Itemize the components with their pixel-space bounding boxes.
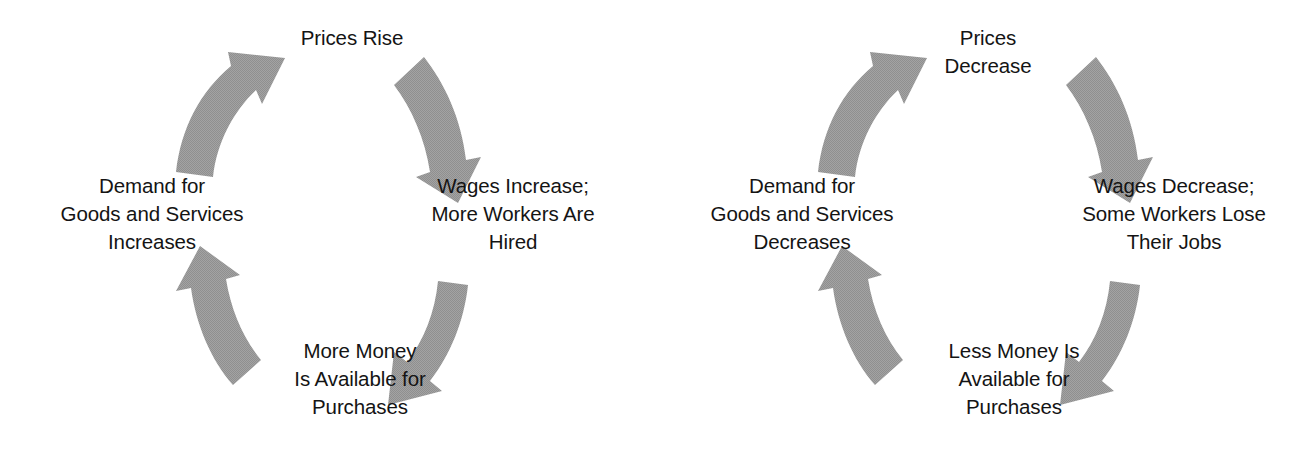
deflation-cycle-diagram: Prices Decrease Wages Decrease; Some Wor… — [658, 0, 1316, 459]
node-label-left: Demand for Goods and Services Decreases — [684, 172, 920, 256]
node-label-bottom: More Money Is Available for Purchases — [262, 337, 458, 421]
arrow-left-to-top-icon — [176, 52, 285, 177]
node-label-top: Prices Rise — [232, 24, 472, 52]
inflation-cycle-diagram: Prices Rise Wages Increase; More Workers… — [0, 0, 658, 459]
arrow-bottom-to-left-icon — [176, 246, 261, 385]
node-label-left: Demand for Goods and Services Increases — [34, 172, 270, 256]
node-label-top: Prices Decrease — [898, 24, 1078, 80]
node-label-right: Wages Increase; More Workers Are Hired — [398, 172, 628, 256]
arrow-bottom-to-left-icon — [818, 246, 903, 385]
node-label-right: Wages Decrease; Some Workers Lose Their … — [1050, 172, 1298, 256]
node-label-bottom: Less Money Is Available for Purchases — [918, 337, 1110, 421]
diagram-canvas: Prices Rise Wages Increase; More Workers… — [0, 0, 1316, 459]
